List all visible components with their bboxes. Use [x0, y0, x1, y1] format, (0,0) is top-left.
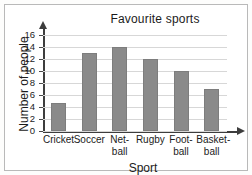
- y-tick-label: 2: [17, 114, 35, 124]
- y-axis-arrow-icon: [39, 21, 47, 29]
- y-tick-mark: [39, 95, 43, 96]
- gridline: [43, 71, 227, 72]
- y-tick-mark: [39, 119, 43, 120]
- x-tick-label-line: Basket-: [196, 134, 227, 146]
- x-tick-label-line: ball: [196, 146, 227, 158]
- x-axis-label: Sport: [39, 161, 247, 175]
- bar: [143, 59, 158, 131]
- x-tick-label-line: Rugby: [135, 134, 166, 146]
- y-tick-label: 6: [17, 90, 35, 100]
- x-tick-label: Basket-ball: [196, 134, 227, 157]
- y-tick-label: 0: [17, 126, 35, 136]
- y-tick-mark: [39, 47, 43, 48]
- gridline: [43, 119, 227, 120]
- bar: [112, 47, 127, 131]
- plot-area: [43, 35, 227, 131]
- y-tick-mark: [39, 59, 43, 60]
- x-tick-label: Net-ball: [104, 134, 135, 157]
- gridline: [43, 47, 227, 48]
- x-tick-label: Rugby: [135, 134, 166, 146]
- x-axis-arrow-icon: [237, 127, 245, 135]
- x-tick-label-line: Net-: [104, 134, 135, 146]
- y-tick-label: 14: [17, 42, 35, 52]
- gridline: [43, 95, 227, 96]
- x-tick-label-line: ball: [166, 146, 197, 158]
- y-tick-mark: [39, 71, 43, 72]
- chart-title: Favourite sports: [65, 12, 245, 26]
- x-tick-label-line: ball: [104, 146, 135, 158]
- gridline: [43, 107, 227, 108]
- x-tick-label: Foot-ball: [166, 134, 197, 157]
- y-tick-label: 16: [17, 30, 35, 40]
- y-tick-mark: [39, 107, 43, 108]
- gridline: [43, 131, 227, 132]
- x-tick-label-line: Soccer: [74, 134, 105, 146]
- y-tick-label: 8: [17, 78, 35, 88]
- y-tick-label: 12: [17, 54, 35, 64]
- gridline: [43, 83, 227, 84]
- bar: [174, 71, 189, 131]
- bar: [204, 89, 219, 131]
- y-tick-label: 10: [17, 66, 35, 76]
- x-tick-label-line: Foot-: [166, 134, 197, 146]
- x-tick-label-line: Cricket: [43, 134, 74, 146]
- chart-frame: Favourite sports Number of people Sport …: [4, 4, 248, 171]
- x-tick-label: Soccer: [74, 134, 105, 146]
- gridline: [43, 59, 227, 60]
- bar: [51, 103, 66, 131]
- y-tick-mark: [39, 83, 43, 84]
- y-tick-label: 4: [17, 102, 35, 112]
- bar: [82, 53, 97, 131]
- y-tick-mark: [39, 35, 43, 36]
- y-tick-mark: [39, 131, 43, 132]
- gridline: [43, 35, 227, 36]
- chart-page: Favourite sports Number of people Sport …: [0, 0, 252, 175]
- x-tick-label: Cricket: [43, 134, 74, 146]
